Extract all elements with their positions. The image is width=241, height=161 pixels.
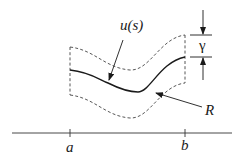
label-a: a bbox=[66, 140, 74, 155]
diagram-canvas: u(s) R γ a b bbox=[0, 0, 241, 161]
u-s-arrow bbox=[109, 40, 123, 80]
region-r-boundary bbox=[70, 35, 185, 118]
label-gamma: γ bbox=[199, 38, 206, 53]
r-arrow bbox=[156, 93, 202, 107]
label-region-r: R bbox=[205, 103, 214, 118]
label-u-s: u(s) bbox=[120, 18, 143, 33]
curve-u-s bbox=[70, 57, 185, 92]
label-b: b bbox=[181, 138, 189, 153]
